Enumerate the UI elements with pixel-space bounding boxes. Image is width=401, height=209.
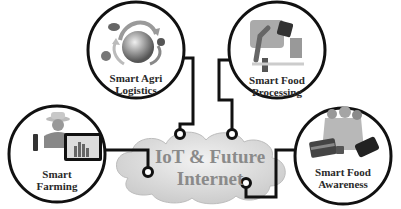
connector-agri-logistics bbox=[180, 58, 193, 130]
node-label-line1: Smart Agri bbox=[96, 72, 176, 84]
node-label-line1: Smart Food bbox=[237, 74, 317, 86]
node-label-smart-farming: Smart Farming bbox=[17, 168, 97, 192]
node-label-line2: Logistics bbox=[96, 84, 176, 96]
node-label-line1: Smart Food bbox=[303, 166, 383, 178]
cloud-title-line1: IoT & Future bbox=[150, 146, 270, 168]
iot-diagram: IoT & Future Internet Smart Agri Logisti… bbox=[0, 0, 401, 209]
node-label-food-processing: Smart Food Processing bbox=[237, 74, 317, 98]
node-label-food-awareness: Smart Food Awareness bbox=[303, 166, 383, 190]
cloud-title-line2: Internet bbox=[150, 168, 270, 190]
cloud-title: IoT & Future Internet bbox=[150, 146, 270, 190]
node-label-line2: Awareness bbox=[303, 178, 383, 190]
node-label-line2: Farming bbox=[17, 180, 97, 192]
node-label-agri-logistics: Smart Agri Logistics bbox=[96, 72, 176, 96]
connector-node-processing bbox=[228, 130, 237, 139]
connector-node-agri bbox=[176, 130, 185, 139]
connector-food-processing bbox=[219, 60, 232, 130]
node-label-line2: Processing bbox=[237, 86, 317, 98]
node-label-line1: Smart bbox=[17, 168, 97, 180]
